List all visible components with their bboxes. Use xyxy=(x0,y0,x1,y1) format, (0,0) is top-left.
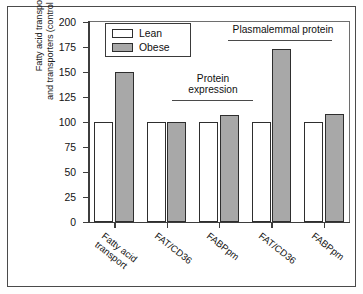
y-tick-label-25: 25 xyxy=(46,192,76,203)
y-tick-label-150: 150 xyxy=(46,67,76,78)
y-tick-200 xyxy=(83,22,88,23)
bar-obese-2 xyxy=(220,115,239,222)
y-tick-175 xyxy=(83,47,88,48)
chart-legend: Lean Obese xyxy=(105,23,191,57)
x-tick-2 xyxy=(219,222,220,228)
bar-lean-2 xyxy=(199,122,218,222)
x-tick-1 xyxy=(167,222,168,228)
y-tick-75 xyxy=(83,147,88,148)
chart-figure: Fatty acid transport and transporters (c… xyxy=(0,0,363,294)
x-tick-0 xyxy=(114,222,115,228)
obese-swatch-icon xyxy=(112,43,133,53)
y-tick-50 xyxy=(83,172,88,173)
annotation-plasmalemmal-protein-bracket xyxy=(228,40,332,41)
y-tick-label-125: 125 xyxy=(46,92,76,103)
y-tick-125 xyxy=(83,97,88,98)
bar-obese-4 xyxy=(325,114,344,222)
y-tick-label-175: 175 xyxy=(46,42,76,53)
annotation-protein-expression-bracket xyxy=(172,100,253,101)
annotation-protein-expression-line1: Protein xyxy=(174,73,252,85)
x-tick-3 xyxy=(271,222,272,228)
bar-lean-0 xyxy=(94,122,113,222)
y-tick-label-75: 75 xyxy=(46,142,76,153)
y-tick-100 xyxy=(83,122,88,123)
y-axis-title-line1: Fatty acid transport xyxy=(34,0,46,100)
lean-swatch-icon xyxy=(112,29,133,39)
y-tick-label-200: 200 xyxy=(46,17,76,28)
y-tick-label-100: 100 xyxy=(46,117,76,128)
legend-item-obese: Obese xyxy=(112,41,190,54)
bar-obese-1 xyxy=(167,122,186,222)
bar-lean-3 xyxy=(252,122,271,222)
bar-obese-0 xyxy=(115,72,134,222)
legend-item-lean: Lean xyxy=(112,27,190,40)
legend-label-lean: Lean xyxy=(139,28,162,39)
y-tick-label-0: 0 xyxy=(46,217,76,228)
y-tick-25 xyxy=(83,197,88,198)
annotation-plasmalemmal-protein-line1: Plasmalemmal protein xyxy=(218,24,348,36)
legend-label-obese: Obese xyxy=(139,42,170,53)
bar-obese-3 xyxy=(272,49,291,222)
bar-lean-4 xyxy=(304,122,323,222)
annotation-protein-expression-line2: expression xyxy=(168,84,258,96)
bar-lean-1 xyxy=(147,122,166,222)
x-tick-4 xyxy=(324,222,325,228)
y-tick-0 xyxy=(83,222,88,223)
y-tick-label-50: 50 xyxy=(46,167,76,178)
y-tick-150 xyxy=(83,72,88,73)
